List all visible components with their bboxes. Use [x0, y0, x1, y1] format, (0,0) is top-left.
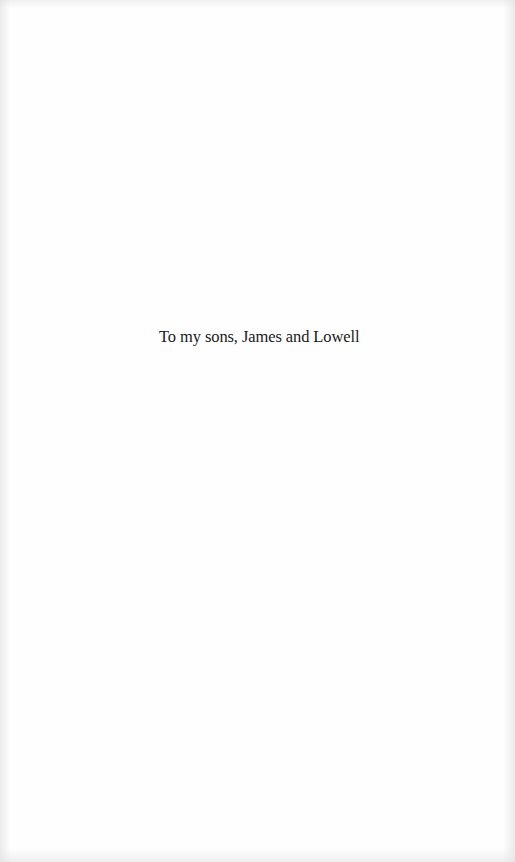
scan-edge-top [0, 0, 515, 8]
scan-edge-left [0, 0, 10, 862]
book-page: To my sons, James and Lowell [0, 0, 515, 862]
scan-edge-right [503, 0, 515, 862]
scan-edge-bottom [0, 848, 515, 862]
dedication-text: To my sons, James and Lowell [159, 327, 359, 347]
